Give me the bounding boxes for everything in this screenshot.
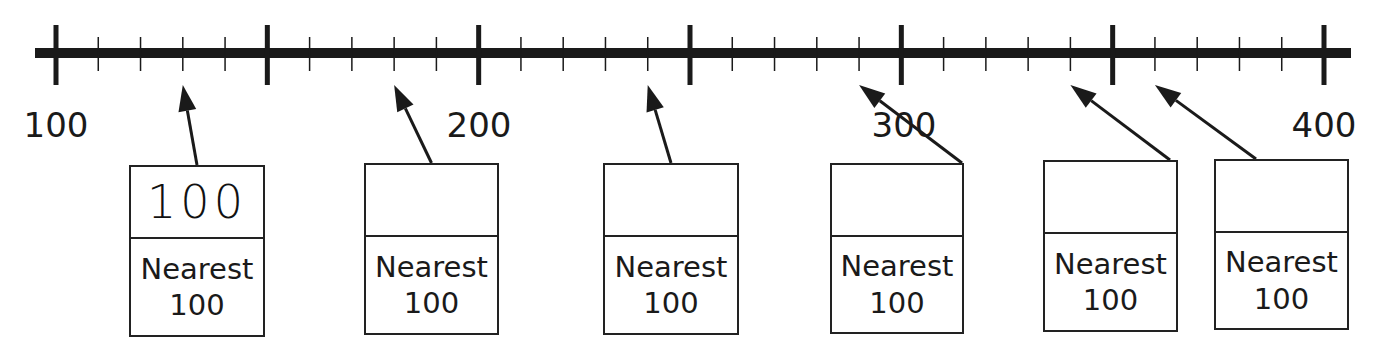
- minor-tick: [1154, 37, 1156, 71]
- answer-field[interactable]: [1045, 162, 1176, 234]
- minor-tick: [1070, 37, 1072, 71]
- minor-tick: [858, 37, 860, 71]
- answer-field[interactable]: [1216, 161, 1347, 233]
- caption-line-1: Nearest: [1054, 246, 1167, 282]
- tick-label-400: 400: [1292, 108, 1357, 142]
- nearest-100-caption: Nearest 100: [1045, 234, 1176, 330]
- answer-box-6: Nearest 100: [1214, 159, 1349, 330]
- minor-tick: [1281, 37, 1283, 71]
- arrow-shaft: [655, 110, 671, 163]
- caption-line-1: Nearest: [1225, 244, 1338, 280]
- minor-tick: [436, 37, 438, 71]
- answer-field[interactable]: 100: [131, 167, 263, 239]
- arrow-shaft: [1176, 100, 1256, 159]
- caption-line-1: Nearest: [841, 248, 954, 284]
- minor-tick: [1027, 37, 1029, 71]
- caption-line-1: Nearest: [375, 249, 488, 285]
- minor-tick: [732, 37, 734, 71]
- minor-tick: [985, 37, 987, 71]
- caption-line-2: 100: [169, 287, 224, 323]
- minor-tick: [520, 37, 522, 71]
- answer-box-5: Nearest 100: [1043, 160, 1178, 332]
- arrow-shaft: [1091, 101, 1170, 160]
- minor-tick: [393, 37, 395, 71]
- caption-line-1: Nearest: [141, 251, 254, 287]
- minor-tick: [1239, 37, 1241, 71]
- answer-box-2: Nearest 100: [364, 163, 499, 335]
- arrow-shaft: [187, 111, 197, 165]
- arrow-shaft: [405, 108, 431, 163]
- answer-box-3: Nearest 100: [603, 163, 739, 335]
- answer-box-1: 100 Nearest 100: [129, 165, 265, 337]
- minor-tick: [562, 37, 564, 71]
- answer-box-4: Nearest 100: [830, 163, 964, 334]
- major-tick: [265, 25, 270, 85]
- caption-line-2: 100: [869, 285, 924, 321]
- minor-tick: [647, 37, 649, 71]
- major-tick: [476, 25, 481, 85]
- minor-tick: [224, 37, 226, 71]
- caption-line-1: Nearest: [615, 249, 728, 285]
- arrow-head-icon: [394, 85, 413, 112]
- major-tick: [1110, 25, 1115, 85]
- arrow-head-icon: [647, 85, 664, 112]
- number-line-bar: [35, 48, 1351, 58]
- arrow-head-icon: [1155, 85, 1181, 108]
- nearest-100-caption: Nearest 100: [131, 239, 263, 335]
- arrow-head-icon: [178, 85, 196, 112]
- major-tick: [899, 25, 904, 85]
- minor-tick: [816, 37, 818, 71]
- tick-label-300: 300: [872, 108, 937, 142]
- nearest-100-caption: Nearest 100: [832, 237, 962, 332]
- caption-line-2: 100: [643, 285, 698, 321]
- number-line-worksheet: 100 200 300 400 100 Nearest 100 Nearest …: [0, 0, 1379, 360]
- minor-tick: [140, 37, 142, 71]
- tick-label-200: 200: [447, 108, 512, 142]
- caption-line-2: 100: [404, 285, 459, 321]
- answer-field[interactable]: [366, 165, 497, 237]
- minor-tick: [309, 37, 311, 71]
- nearest-100-caption: Nearest 100: [605, 237, 737, 333]
- major-tick: [54, 25, 59, 85]
- major-tick: [1322, 25, 1327, 85]
- caption-line-2: 100: [1083, 282, 1138, 318]
- nearest-100-caption: Nearest 100: [366, 237, 497, 333]
- answer-field[interactable]: [832, 165, 962, 237]
- minor-tick: [605, 37, 607, 71]
- arrow-head-icon: [1070, 85, 1096, 108]
- caption-line-2: 100: [1254, 281, 1309, 317]
- minor-tick: [943, 37, 945, 71]
- nearest-100-caption: Nearest 100: [1216, 233, 1347, 328]
- minor-tick: [182, 37, 184, 71]
- minor-tick: [774, 37, 776, 71]
- answer-field[interactable]: [605, 165, 737, 237]
- major-tick: [688, 25, 693, 85]
- tick-label-100: 100: [24, 108, 89, 142]
- minor-tick: [351, 37, 353, 71]
- minor-tick: [1196, 37, 1198, 71]
- minor-tick: [98, 37, 100, 71]
